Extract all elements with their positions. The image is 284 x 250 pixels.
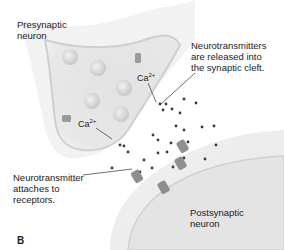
- calcium-ion-label-upper: Ca2+: [137, 72, 155, 83]
- postsynaptic-neuron: [110, 130, 284, 250]
- panel-letter: B: [17, 235, 24, 246]
- calcium-ion-label-lower: Ca2+: [78, 118, 96, 129]
- neurotransmitters-released-label: Neurotransmitters are released into the …: [191, 40, 267, 73]
- postsynaptic-neuron-label: Postsynaptic neuron: [190, 207, 244, 229]
- neurotransmitter-attaches-label: Neurotransmitter attaches to receptors.: [13, 172, 84, 205]
- presynaptic-neuron-label: Presynaptic neuron: [17, 19, 67, 41]
